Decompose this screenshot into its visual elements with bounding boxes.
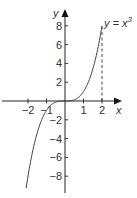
y-tick-label: −4 <box>49 133 62 145</box>
curve-label-exponent: 3 <box>128 15 133 24</box>
curve-label: y = x3 <box>103 15 133 29</box>
y-tick-label: 6 <box>56 39 62 51</box>
y-tick-label: −2 <box>49 114 62 126</box>
y-tick-label: 4 <box>56 57 62 69</box>
chart-canvas: −2−1128642−2−4−6−8 y x y = x3 <box>0 0 137 198</box>
y-axis-arrow-icon <box>62 9 69 17</box>
x-tick-label: −2 <box>22 104 35 116</box>
y-axis-label: y <box>52 7 60 19</box>
x-tick-label: 1 <box>80 104 86 116</box>
y-tick-label: −6 <box>49 151 62 163</box>
x-tick-label: 2 <box>99 104 105 116</box>
y-tick-label: 8 <box>56 20 62 32</box>
y-tick-label: 2 <box>56 76 62 88</box>
y-tick-label: −8 <box>49 170 62 182</box>
x-axis-label: x <box>115 104 122 116</box>
curve-label-text: y = x <box>103 17 128 29</box>
cubic-curve <box>26 26 102 188</box>
